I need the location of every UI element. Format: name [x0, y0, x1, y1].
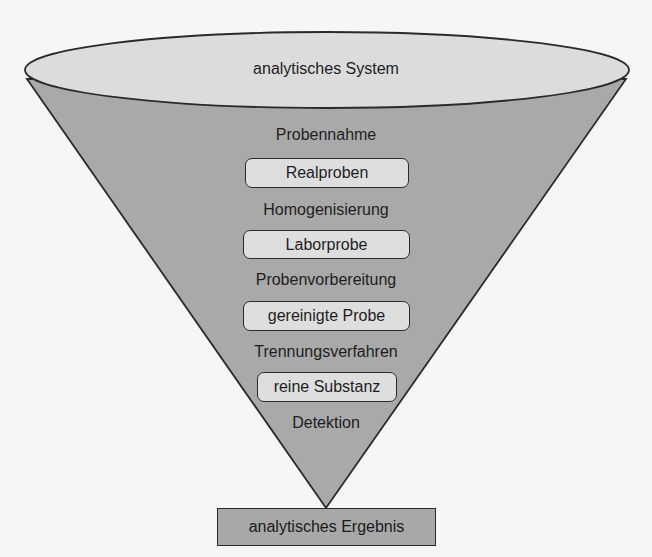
step-product-pure-substance: reine Substanz: [257, 372, 397, 402]
step-product-purified-sample: gereinigte Probe: [243, 301, 410, 331]
step-product-real-samples: Realproben: [245, 158, 409, 188]
step-process-homogenization: Homogenisierung: [0, 201, 652, 219]
step-process-separation: Trennungsverfahren: [0, 343, 652, 361]
step-product-lab-sample: Laborprobe: [243, 230, 410, 259]
system-label: analytisches System: [0, 60, 652, 78]
analytical-funnel-diagram: analytisches System Probennahme Realprob…: [0, 0, 652, 557]
step-process-sample-preparation: Probenvorbereitung: [0, 271, 652, 289]
analytical-result-box: analytisches Ergebnis: [217, 508, 436, 546]
step-process-detection: Detektion: [0, 414, 652, 432]
step-process-sampling: Probennahme: [0, 126, 652, 144]
